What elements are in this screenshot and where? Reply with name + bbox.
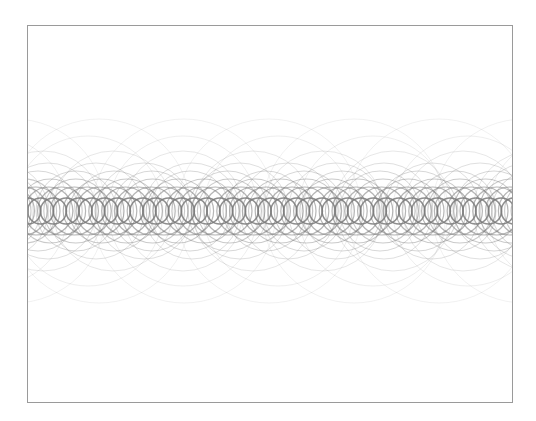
circle-layer-r75 — [28, 136, 512, 286]
drawing-canvas — [27, 25, 513, 403]
circle-layer-r92 — [28, 119, 512, 303]
circle-pattern-graphic — [28, 26, 512, 402]
circle-layer-r60 — [28, 151, 512, 271]
